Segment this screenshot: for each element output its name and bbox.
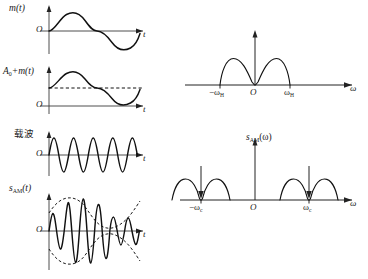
axis-label-t-a0-plus-mt: t	[143, 105, 146, 114]
axis-label-t-carrier: t	[143, 154, 146, 163]
panel-carrier: 载波 O t	[0, 124, 180, 182]
axis-label-omega-m: ω	[350, 84, 356, 93]
tick-label-minus-omega-c: −ωc	[189, 203, 202, 213]
panel-am-signal: sAM(t) O t	[0, 182, 180, 279]
plot-sam-t	[0, 182, 180, 279]
tick-label-minus-omega-h: −ωH	[209, 88, 224, 98]
magnitude-axis-arrowhead	[253, 30, 258, 38]
origin-label-m-omega: O	[250, 88, 257, 97]
amplitude-axis-arrowhead	[47, 66, 52, 73]
signal-label-sam-omega: sAM(ω)	[246, 133, 272, 144]
plot-mt	[0, 0, 180, 60]
spectrum-lobe-right	[256, 59, 291, 86]
amplitude-axis-arrowhead	[47, 131, 52, 138]
origin-label-carrier: O	[36, 149, 43, 158]
tick-label-omega-h: ωH	[284, 88, 294, 98]
spectrum-lobe-upper-right	[310, 179, 339, 200]
panel-modulating-spectrum: M(ω) −ωH O ωH ω	[180, 14, 368, 114]
axis-label-omega-sam: ω	[350, 199, 356, 208]
signal-label-mt: m(t)	[9, 4, 25, 14]
origin-label-sam-t: O	[36, 225, 43, 234]
plot-m-omega	[180, 14, 368, 114]
amplitude-axis-arrowhead	[47, 5, 52, 12]
signal-label-carrier: 载波	[14, 129, 34, 139]
axis-label-t-sam-t: t	[143, 230, 146, 239]
t-axis-arrowhead	[136, 103, 143, 108]
amplitude-axis-arrowhead	[47, 193, 52, 200]
spectrum-lobe-lower-right	[280, 179, 309, 200]
signal-label-sam-t: sAM(t)	[9, 184, 31, 195]
spectrum-lobe-left	[220, 59, 255, 86]
tick-label-omega-c: ωc	[303, 203, 311, 213]
origin-label-sam-omega: O	[250, 203, 257, 212]
panel-modulating-signal: m(t) O t	[0, 0, 180, 60]
panel-biased-signal: A0+m(t) O t	[0, 58, 180, 120]
am-modulation-figure: m(t) O t A0+m(t) O t	[0, 0, 368, 279]
t-axis-arrowhead	[136, 28, 143, 33]
spectrum-lobe-upper-left	[202, 179, 231, 200]
plot-sam-omega	[180, 130, 368, 240]
signal-label-a0-plus-mt: A0+m(t)	[3, 67, 34, 78]
origin-label-mt: O	[36, 25, 43, 34]
origin-label-a0-plus-mt: O	[36, 100, 43, 109]
axis-label-t-mt: t	[143, 30, 146, 39]
panel-am-spectrum: sAM(ω) −ωc O ωc ω	[180, 130, 368, 240]
